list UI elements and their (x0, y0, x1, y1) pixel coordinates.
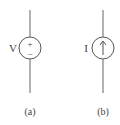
current-label: I (84, 42, 88, 54)
plus-sign: + (27, 39, 32, 49)
minus-sign: − (27, 49, 32, 59)
caption-a: (a) (24, 106, 35, 118)
current-source-figure: I (b) (84, 10, 114, 118)
voltage-label: V (9, 42, 17, 54)
arrow-up-icon (100, 41, 106, 55)
voltage-source-figure: + − V (a) (9, 10, 41, 118)
circuit-source-diagram: + − V (a) I (b) (0, 0, 120, 125)
caption-b: (b) (97, 106, 109, 118)
